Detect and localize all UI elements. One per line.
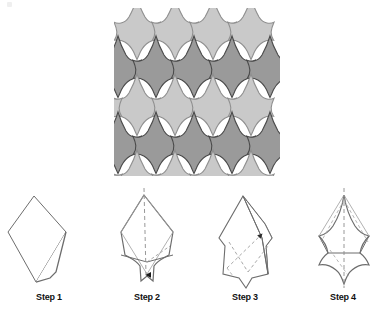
tessellation-panel xyxy=(76,0,293,211)
tessellation-row xyxy=(95,112,293,173)
step-2-diagram xyxy=(121,188,173,281)
step-4-diagram xyxy=(319,188,369,288)
tessellation-row xyxy=(95,36,293,97)
tessellation-row xyxy=(76,74,274,135)
step-1-label: Step 1 xyxy=(0,292,98,302)
step-3-diagram xyxy=(219,196,272,288)
step-3-label: Step 3 xyxy=(196,292,294,302)
step-1-diagram xyxy=(8,196,66,282)
origami-tessellation-figure xyxy=(0,0,392,317)
step-2-label: Step 2 xyxy=(98,292,196,302)
step-4-label: Step 4 xyxy=(294,292,392,302)
scan-artifact xyxy=(7,2,12,7)
